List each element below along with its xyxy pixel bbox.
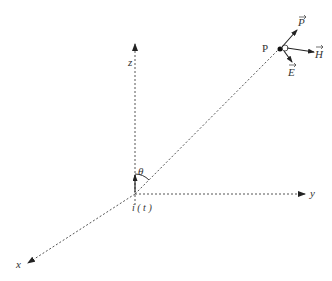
x-axis	[28, 194, 135, 263]
radius-line	[135, 48, 280, 194]
electric-field-vector	[284, 51, 292, 62]
poynting-vector-label: P	[297, 16, 305, 28]
z-axis-label: z	[127, 56, 133, 68]
magnetic-field-label: H	[314, 48, 324, 60]
theta-label: θ	[138, 165, 144, 177]
x-axis-label: x	[15, 258, 21, 270]
point-p-label: P	[262, 42, 268, 54]
electric-field-label: E	[287, 66, 295, 78]
magnetic-field-vector	[287, 48, 314, 52]
diagram-canvas: z y x θ i ( t ) P P H E	[0, 0, 332, 281]
origin-label: i ( t )	[132, 202, 152, 214]
poynting-vector	[282, 30, 297, 47]
y-axis-label: y	[309, 187, 315, 199]
